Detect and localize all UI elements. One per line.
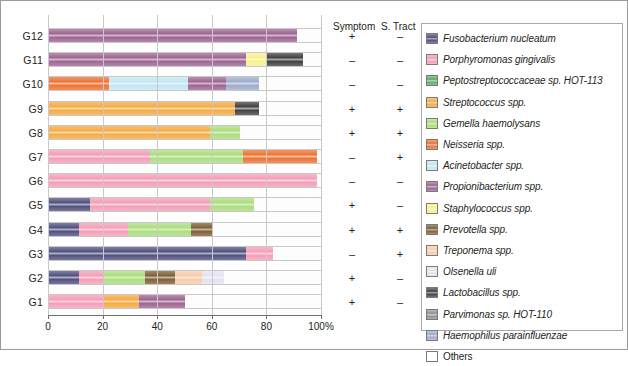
legend-label: Fusobacterium nucleatum [443, 33, 556, 44]
bar-track [48, 52, 321, 67]
bar-row-label: G5 [7, 194, 43, 216]
bar-row: G9 [7, 98, 327, 120]
bar-segment [267, 53, 302, 66]
bar-segment [79, 223, 128, 236]
bar-row: G7 [7, 146, 327, 168]
legend-label: Peptostreptococcaceae sp. HOT-113 [443, 75, 603, 86]
legend-item: Streptococcus spp. [426, 92, 622, 113]
legend-label: Acinetobacter spp. [443, 160, 524, 171]
bar-segment [49, 77, 109, 90]
annotation-cell: + [380, 98, 420, 120]
bar-segment [213, 223, 322, 236]
bar-segment [49, 223, 79, 236]
annotation-cell: + [380, 219, 420, 241]
bar-track [48, 173, 321, 188]
bar-row: G5 [7, 194, 327, 216]
bar-row: G2 [7, 267, 327, 289]
annotation-columns: Symptom+––++––++–++S. Tract–––+++––++–– [331, 7, 423, 345]
legend-label: Parvimonas sp. HOT-110 [443, 309, 552, 320]
bar-row: G3 [7, 243, 327, 265]
annotation-cell: – [332, 49, 372, 71]
bar-segment [246, 247, 273, 260]
bar-segment [210, 126, 240, 139]
axis-tick-label: 20 [97, 321, 108, 332]
annotation-cell: + [332, 267, 372, 289]
legend-item: Olsenella uli [426, 261, 622, 282]
axis-tick [48, 315, 49, 319]
bar-segment [317, 150, 322, 163]
bar-segment [186, 295, 323, 308]
annotation-cell: – [380, 49, 420, 71]
bar-track [48, 76, 321, 91]
legend-swatch [426, 33, 438, 44]
legend-label: Propionibacterium spp. [443, 181, 543, 192]
bar-segment [49, 198, 90, 211]
legend-item: Prevotella spp. [426, 219, 622, 240]
axis-tick [266, 315, 267, 319]
annotation-cell: – [380, 267, 420, 289]
bar-segment [240, 126, 322, 139]
annotation-cell: + [332, 25, 372, 47]
x-axis [48, 315, 322, 316]
legend-swatch [426, 266, 438, 277]
legend-item: Haemophilus parainfluenzae [426, 325, 622, 346]
bar-segment [49, 247, 246, 260]
bar-segment [104, 271, 145, 284]
bar-row-label: G4 [7, 219, 43, 241]
bar-row-label: G12 [7, 25, 43, 47]
bar-track [48, 222, 321, 237]
bar-segment [49, 150, 150, 163]
bar-row: G4 [7, 219, 327, 241]
legend-swatch [426, 75, 438, 86]
legend-swatch [426, 330, 438, 341]
bar-row: G1 [7, 291, 327, 313]
legend-item: Peptostreptococcaceae sp. HOT-113 [426, 70, 622, 91]
legend-item: Propionibacterium spp. [426, 176, 622, 197]
legend-label: Porphyromonas gingivalis [443, 54, 555, 65]
bar-segment [49, 295, 104, 308]
legend-swatch [426, 118, 438, 129]
bar-segment [49, 271, 79, 284]
legend-item: Staphylococcus spp. [426, 198, 622, 219]
chart-legend: Fusobacterium nucleatumPorphyromonas gin… [421, 23, 623, 331]
bar-row-label: G6 [7, 170, 43, 192]
bar-row-label: G9 [7, 98, 43, 120]
legend-swatch [426, 287, 438, 298]
bar-segment [49, 102, 235, 115]
legend-label: Others [443, 351, 472, 362]
bar-segment [254, 198, 322, 211]
bar-segment [303, 53, 322, 66]
bar-track [48, 28, 321, 43]
stacked-bar-chart: G12G11G10G9G8G7G6G5G4G3G2G1 020406080100… [7, 7, 329, 345]
axis-tick [212, 315, 213, 319]
bar-track [48, 197, 321, 212]
bar-segment [224, 271, 322, 284]
bar-row: G6 [7, 170, 327, 192]
legend-swatch [426, 97, 438, 108]
bar-track [48, 101, 321, 116]
legend-item: Others [426, 346, 622, 366]
annotation-cell: – [380, 194, 420, 216]
legend-label: Haemophilus parainfluenzae [443, 330, 567, 341]
legend-item: Neisseria spp. [426, 134, 622, 155]
bar-segment [188, 77, 226, 90]
legend-item: Lactobacillus spp. [426, 282, 622, 303]
bar-segment [259, 77, 322, 90]
legend-swatch [426, 181, 438, 192]
bar-row-label: G2 [7, 267, 43, 289]
axis-tick [321, 315, 322, 319]
annotation-cell: + [332, 98, 372, 120]
annotation-cell: – [332, 243, 372, 265]
legend-label: Lactobacillus spp. [443, 287, 521, 298]
bar-segment [235, 102, 260, 115]
bar-segment [273, 247, 322, 260]
axis-tick-label: 80 [261, 321, 272, 332]
annotation-cell: + [332, 194, 372, 216]
bar-segment [226, 77, 259, 90]
bar-segment [191, 223, 213, 236]
bar-segment [317, 174, 322, 187]
axis-tick-label: 40 [152, 321, 163, 332]
bar-track [48, 125, 321, 140]
bar-segment [49, 174, 317, 187]
bar-segment [49, 53, 246, 66]
